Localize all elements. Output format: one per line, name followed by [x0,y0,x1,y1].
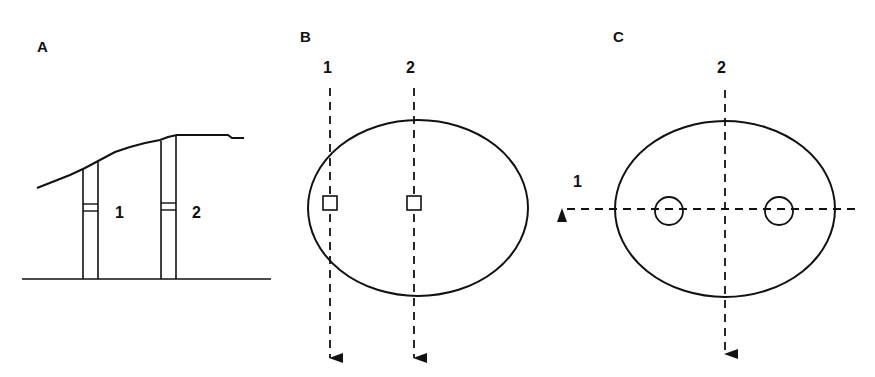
path-1-label: 1 [573,173,582,190]
well-1-label: 1 [115,204,124,221]
panel-c-label: C [613,28,624,45]
sloped-surface [37,135,244,188]
panel-b-label: B [300,28,311,45]
well-2 [161,136,176,279]
well-2-label: 2 [192,204,201,221]
path-2-label: 2 [717,59,726,76]
panel-a-label: A [37,38,48,55]
panel-a: A 1 2 [22,38,271,279]
diagram-canvas: A 1 2 B 1 2 C 2 1 [0,0,875,377]
sample-circle-1 [655,197,683,225]
sample-square-1 [323,196,337,210]
path-1-label: 1 [323,59,332,76]
panel-b: B 1 2 [300,28,528,358]
well-1 [83,162,98,279]
panel-c: C 2 1 [562,28,855,354]
path-2-label: 2 [406,59,415,76]
sample-square-2 [407,196,421,210]
sample-circle-2 [765,197,793,225]
